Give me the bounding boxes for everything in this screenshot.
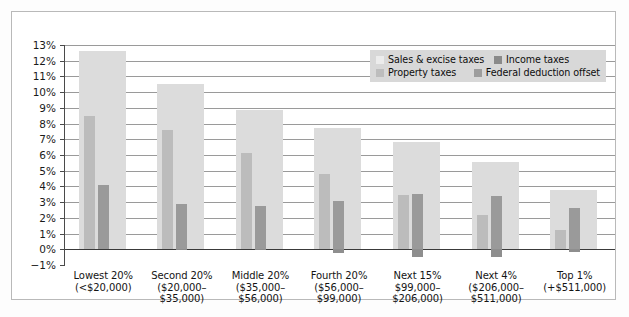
y-axis-tick-label: 3% — [39, 197, 56, 207]
x-axis-range: ($206,000– — [457, 282, 536, 294]
x-axis-labels: Lowest 20%(<$20,000)Second 20%($20,000–$… — [64, 270, 614, 316]
x-axis-category: Top 1% — [535, 270, 614, 282]
x-axis-range: (+$511,000) — [535, 282, 614, 294]
legend-item-property-taxes: Property taxes — [376, 67, 474, 78]
y-axis-tick-label: 6% — [39, 150, 56, 160]
bar-property-taxes — [477, 215, 488, 250]
legend-label: Federal deduction offset — [486, 67, 600, 78]
legend-swatch-icon — [376, 56, 384, 64]
x-axis-group-label: Middle 20%($35,000–$56,000) — [221, 270, 300, 305]
bar-property-taxes — [555, 230, 566, 249]
x-axis-category: Lowest 20% — [64, 270, 143, 282]
y-axis-tick-label: 8% — [39, 119, 56, 129]
y-axis-tick-label: 1% — [39, 229, 56, 239]
bar-income-taxes — [491, 196, 502, 249]
bar-federal-deduction-offset — [333, 249, 344, 253]
legend-item-income-taxes: Income taxes — [494, 54, 569, 65]
chart-legend: Sales & excise taxes Income taxes Proper… — [370, 50, 606, 82]
chart-figure: 13%12%11%10%9%8%7%6%5%4%3%2%1%0%−1% Lowe… — [0, 0, 629, 317]
y-axis-tick-label: 5% — [39, 166, 56, 176]
bar-property-taxes — [398, 195, 409, 249]
x-axis-range: (<$20,000) — [64, 282, 143, 294]
legend-swatch-icon — [474, 69, 482, 77]
bar-federal-deduction-offset — [569, 249, 580, 252]
bar-income-taxes — [569, 208, 580, 249]
y-axis-tick-label: 0% — [39, 244, 56, 254]
y-axis-tick-label: 10% — [33, 87, 56, 97]
bar-federal-deduction-offset — [176, 249, 187, 250]
x-axis-range: $56,000) — [221, 293, 300, 305]
y-axis-tick-label: 4% — [39, 181, 56, 191]
x-axis-category: Middle 20% — [221, 270, 300, 282]
bar-income-taxes — [412, 194, 423, 249]
x-axis-category: Next 15% — [378, 270, 457, 282]
y-axis-tick-label: 2% — [39, 213, 56, 223]
x-axis-range: $206,000) — [378, 293, 457, 305]
bar-group — [65, 45, 144, 265]
y-axis-tick-label: 12% — [33, 56, 56, 66]
x-axis-group-label: Second 20%($20,000–$35,000) — [143, 270, 222, 305]
legend-item-sales-excise-taxes: Sales & excise taxes — [376, 54, 494, 65]
y-axis-tick-label: 11% — [33, 71, 56, 81]
bar-group — [144, 45, 223, 265]
legend-item-federal-deduction-offset: Federal deduction offset — [474, 67, 600, 78]
y-axis-tick — [60, 265, 65, 266]
x-axis-range: ($20,000– — [143, 282, 222, 294]
y-axis-tick-label: 9% — [39, 103, 56, 113]
x-axis-group-label: Next 15%$99,000–$206,000) — [378, 270, 457, 305]
legend-row: Property taxes Federal deduction offset — [376, 66, 600, 79]
y-axis-labels: 13%12%11%10%9%8%7%6%5%4%3%2%1%0%−1% — [12, 45, 58, 265]
bar-group — [222, 45, 301, 265]
x-axis-group-label: Fourth 20%($56,000–$99,000) — [300, 270, 379, 305]
legend-label: Sales & excise taxes — [388, 54, 484, 65]
bar-group — [301, 45, 380, 265]
x-axis-group-label: Top 1%(+$511,000) — [535, 270, 614, 293]
x-axis-range: ($56,000– — [300, 282, 379, 294]
bar-income-taxes — [255, 206, 266, 249]
legend-swatch-icon — [376, 69, 384, 77]
bar-property-taxes — [319, 174, 330, 249]
bar-property-taxes — [162, 130, 173, 249]
x-axis-range: $99,000) — [300, 293, 379, 305]
y-axis-tick-label: 7% — [39, 134, 56, 144]
x-axis-category: Second 20% — [143, 270, 222, 282]
y-axis-tick-label: 13% — [33, 40, 56, 50]
bar-federal-deduction-offset — [255, 249, 266, 250]
bar-federal-deduction-offset — [491, 249, 502, 257]
x-axis-range: $35,000) — [143, 293, 222, 305]
bar-federal-deduction-offset — [412, 249, 423, 257]
bar-income-taxes — [98, 185, 109, 249]
x-axis-group-label: Next 4%($206,000–$511,000) — [457, 270, 536, 305]
legend-label: Income taxes — [506, 54, 569, 65]
bar-income-taxes — [176, 204, 187, 250]
x-axis-category: Next 4% — [457, 270, 536, 282]
bar-income-taxes — [333, 201, 344, 249]
x-axis-range: $99,000– — [378, 282, 457, 294]
bar-property-taxes — [84, 116, 95, 250]
legend-label: Property taxes — [388, 67, 456, 78]
chart-frame: 13%12%11%10%9%8%7%6%5%4%3%2%1%0%−1% Lowe… — [11, 11, 616, 300]
y-axis-tick-label: −1% — [31, 260, 56, 270]
bar-property-taxes — [241, 153, 252, 249]
legend-row: Sales & excise taxes Income taxes — [376, 53, 600, 66]
x-axis-group-label: Lowest 20%(<$20,000) — [64, 270, 143, 293]
x-axis-range: ($35,000– — [221, 282, 300, 294]
x-axis-range: $511,000) — [457, 293, 536, 305]
legend-swatch-icon — [494, 56, 502, 64]
x-axis-category: Fourth 20% — [300, 270, 379, 282]
